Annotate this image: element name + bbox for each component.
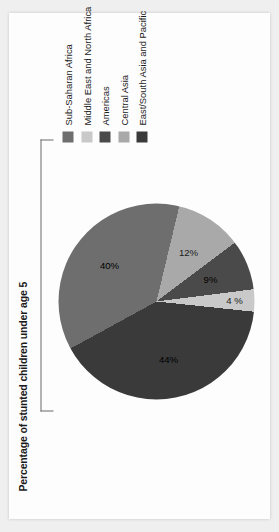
- legend-item-label: Americas: [100, 86, 111, 125]
- legend-swatch-icon: [137, 132, 148, 143]
- chart-title: Percentage of stunted children under age…: [17, 282, 29, 492]
- legend-item-label: Central Asia: [118, 75, 129, 126]
- pie-chart-figure: Percentage of stunted children under age…: [11, 13, 269, 500]
- legend-swatch-icon: [63, 132, 74, 143]
- legend-item-label: Sub-Saharan Africa: [63, 44, 74, 125]
- legend-swatch-icon: [81, 132, 92, 143]
- total-bracket: [41, 140, 54, 412]
- pie-wrap: 44% 40% 12% 9% 4 %: [59, 204, 255, 400]
- legend-item-label: East/South Asia and Pacific: [137, 11, 148, 126]
- slice-label-4: 4 %: [227, 295, 244, 306]
- chart-legend: Sub-Saharan Africa Middle East and North…: [63, 7, 148, 143]
- legend-item-central-asia[interactable]: Central Asia: [118, 7, 129, 143]
- chart-sheet: Percentage of stunted children under age…: [9, 13, 270, 519]
- screenshot-page: Percentage of stunted children under age…: [0, 0, 279, 532]
- slice-label-9: 9%: [204, 274, 218, 285]
- legend-swatch-icon: [100, 132, 111, 143]
- pie-graphic: [59, 204, 255, 400]
- legend-item-americas[interactable]: Americas: [100, 7, 111, 143]
- slice-label-12: 12%: [179, 247, 198, 258]
- legend-item-east-south-asia-and-pacific[interactable]: East/South Asia and Pacific: [137, 7, 148, 143]
- legend-item-middle-east-and-north-africa[interactable]: Middle East and North Africa: [81, 7, 92, 143]
- slice-label-44: 44%: [158, 354, 177, 365]
- legend-item-label: Middle East and North Africa: [81, 7, 92, 126]
- slice-label-40: 40%: [100, 260, 119, 271]
- legend-swatch-icon: [118, 132, 129, 143]
- legend-item-sub-saharan-africa[interactable]: Sub-Saharan Africa: [63, 7, 74, 143]
